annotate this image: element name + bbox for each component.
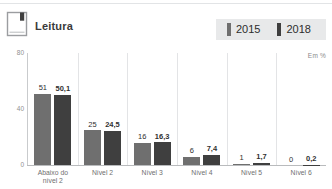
legend-item-2018[interactable]: 2018 (277, 23, 310, 36)
book-icon (6, 11, 28, 37)
bar-pair: 5150,1 (28, 53, 78, 165)
category-label-line: Nível 5 (228, 169, 276, 177)
bar-value-label: 25 (88, 121, 96, 129)
bar-value-label: 7,4 (207, 145, 217, 153)
category-label-line: Nível 6 (277, 169, 325, 177)
chart-plot-area: Em % 80 40 0 5150,12524,51616,367,411,70… (0, 45, 332, 189)
bar-rect[interactable] (154, 142, 171, 165)
bar-rect[interactable] (134, 143, 151, 165)
legend-label-2018: 2018 (286, 24, 310, 35)
bar-value-label: 16 (138, 133, 146, 141)
bar-value-label: 16,3 (155, 133, 170, 141)
category-label-line: Nível 4 (178, 169, 226, 177)
bar-item[interactable]: 16,3 (154, 53, 171, 165)
legend-item-2015[interactable]: 2015 (227, 23, 260, 36)
bar-rect[interactable] (104, 131, 121, 165)
bar-rect[interactable] (253, 163, 270, 165)
bar-rect[interactable] (54, 95, 71, 165)
bar-item[interactable]: 1,7 (253, 53, 270, 165)
bar-rect[interactable] (34, 94, 51, 165)
bar-group: 5150,1 (28, 53, 78, 165)
bar-rect[interactable] (203, 155, 220, 165)
bar-rect[interactable] (183, 157, 200, 165)
bar-item[interactable]: 24,5 (104, 53, 121, 165)
bar-value-label: 6 (190, 147, 194, 155)
chart-header: Leitura 2015 2018 (0, 9, 332, 39)
category-label-line: Abaixo do (29, 169, 77, 177)
chart-page: Leitura 2015 2018 Em % 80 40 0 5150,1252… (0, 0, 332, 189)
category-label: Nível 5 (227, 169, 277, 189)
bar-group: 00,2 (276, 53, 326, 165)
legend-label-2015: 2015 (236, 24, 260, 35)
bar-rect[interactable] (84, 130, 101, 165)
bar-value-label: 0,2 (306, 155, 316, 163)
bar-group: 67,4 (177, 53, 227, 165)
category-labels: Abaixo donível 2Nível 2Nível 3Nível 4Nív… (28, 169, 326, 189)
category-label: Nível 6 (276, 169, 326, 189)
y-tick-0: 0 (2, 161, 24, 168)
bar-groups: 5150,12524,51616,367,411,700,2 (28, 53, 326, 165)
bar-pair: 00,2 (276, 53, 326, 165)
bar-item[interactable]: 25 (84, 53, 101, 165)
bar-value-label: 50,1 (56, 85, 71, 93)
bar-value-label: 0 (289, 156, 293, 164)
bar-item[interactable]: 0 (283, 53, 300, 165)
bar-item[interactable]: 51 (34, 53, 51, 165)
legend: 2015 2018 (216, 19, 326, 40)
bar-value-label: 24,5 (105, 121, 120, 129)
category-label-line: Nível 2 (79, 169, 127, 177)
y-tick-80: 80 (2, 49, 24, 56)
bar-pair: 11,7 (227, 53, 277, 165)
top-divider (0, 3, 332, 4)
x-axis-baseline (27, 165, 326, 166)
bar-item[interactable]: 7,4 (203, 53, 220, 165)
bar-item[interactable]: 1 (233, 53, 250, 165)
bar-value-label: 51 (39, 84, 47, 92)
bar-item[interactable]: 50,1 (54, 53, 71, 165)
bar-value-label: 1 (239, 154, 243, 162)
y-axis-ticks: 80 40 0 (0, 45, 24, 175)
bar-rect[interactable] (233, 164, 250, 165)
bar-group: 1616,3 (127, 53, 177, 165)
category-label: Abaixo donível 2 (28, 169, 78, 189)
page-title: Leitura (35, 20, 73, 32)
bar-group: 2524,5 (78, 53, 128, 165)
category-label: Nível 4 (177, 169, 227, 189)
bar-value-label: 1,7 (256, 153, 266, 161)
bar-item[interactable]: 0,2 (303, 53, 320, 165)
category-label-line: Nível 3 (128, 169, 176, 177)
category-label: Nível 3 (127, 169, 177, 189)
bar-pair: 2524,5 (78, 53, 128, 165)
category-label: Nível 2 (78, 169, 128, 189)
bar-item[interactable]: 16 (134, 53, 151, 165)
category-label-line: nível 2 (29, 177, 77, 185)
bar-pair: 67,4 (177, 53, 227, 165)
bar-group: 11,7 (227, 53, 277, 165)
legend-swatch-2018 (277, 23, 281, 36)
bar-item[interactable]: 6 (183, 53, 200, 165)
y-tick-40: 40 (2, 105, 24, 112)
legend-swatch-2015 (227, 23, 231, 36)
bar-pair: 1616,3 (127, 53, 177, 165)
